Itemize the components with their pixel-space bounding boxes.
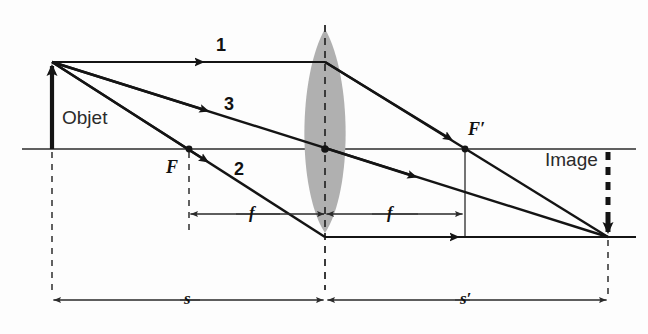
- ray-3-label: 3: [224, 95, 234, 113]
- ray-1-label: 1: [216, 36, 226, 54]
- dim-f-right-label: f: [387, 204, 393, 221]
- dim-f-left-label: f: [249, 204, 255, 221]
- figure-canvas: Objet Image 1 3 2 F F′ f f s s′: [0, 0, 648, 334]
- focal-left-label: F: [166, 158, 178, 176]
- dim-s-label: s: [184, 290, 191, 307]
- lens-optical-centre-dot: [321, 145, 329, 153]
- ray-3-arrow-left: [52, 62, 205, 110]
- focal-point-F-prime-dot: [462, 146, 469, 153]
- image-label: Image: [545, 150, 598, 169]
- object-label: Objet: [62, 108, 107, 127]
- ray-2-label: 2: [234, 160, 244, 178]
- dim-s-prime-label: s′: [460, 290, 471, 307]
- focal-right-label: F′: [468, 120, 485, 138]
- focal-point-F-dot: [186, 146, 193, 153]
